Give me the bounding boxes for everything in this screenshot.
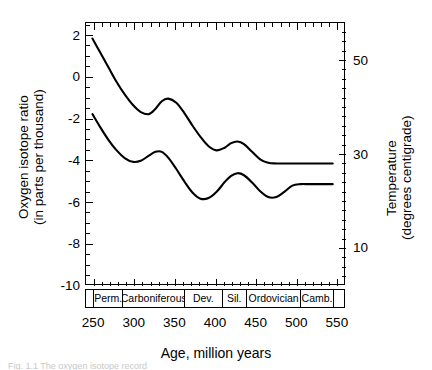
period-camb: Camb. — [301, 290, 334, 307]
period-blank — [86, 290, 94, 307]
period-ordovician: Ordovician — [247, 290, 301, 307]
y-axis-left-title-line1: Oxygen isotope ratio — [16, 44, 31, 270]
x-axis-tick-label: 250 — [82, 315, 105, 330]
y-axis-left-title-line2: (in parts per thousand) — [31, 44, 46, 270]
x-axis-tick-label: 550 — [326, 315, 349, 330]
period-label: Sil. — [227, 293, 242, 304]
y-axis-left-tick-label: 0 — [72, 69, 80, 84]
data-curves — [86, 23, 344, 284]
x-axis-tick-label: 300 — [122, 315, 145, 330]
y-axis-left-tick-label: 2 — [72, 27, 80, 42]
period-blank — [334, 290, 346, 307]
y-axis-left-tick-label: -6 — [68, 194, 80, 209]
y-axis-right-tick-label: 10 — [353, 240, 368, 255]
period-label: Camb. — [302, 293, 333, 304]
y-axis-left-tick-label: -8 — [68, 236, 80, 251]
period-label: Carboniferous — [123, 293, 185, 304]
x-axis-title: Age, million years — [0, 345, 432, 361]
period-label: Dev. — [193, 293, 214, 304]
y-axis-left-tick-label: -2 — [68, 111, 80, 126]
y-axis-right-title-line2: (degrees centigrade) — [399, 62, 414, 294]
period-perm: Perm. — [94, 290, 123, 307]
x-axis-tick-label: 500 — [285, 315, 308, 330]
y-axis-right-tick-label: 50 — [353, 52, 368, 67]
y-axis-left-tick-label: -4 — [68, 152, 80, 167]
curve-lower-envelope — [92, 114, 332, 199]
x-axis-tick-label: 400 — [204, 315, 227, 330]
curve-upper-envelope — [92, 39, 332, 164]
x-axis-tick-label: 450 — [244, 315, 267, 330]
period-label: Ordovician — [248, 293, 298, 304]
x-axis-tick-label: 350 — [163, 315, 186, 330]
geologic-period-bar: Perm.CarboniferousDev.Sil.OrdovicianCamb… — [85, 289, 345, 308]
period-carboniferous: Carboniferous — [123, 290, 185, 307]
y-axis-right-tick-label: 30 — [353, 146, 368, 161]
y-axis-right-title: Temperature (degrees centigrade) — [384, 62, 414, 294]
y-axis-left-tick-label: -10 — [60, 278, 80, 293]
period-dev: Dev. — [185, 290, 222, 307]
period-sil: Sil. — [223, 290, 247, 307]
y-axis-left-title: Oxygen isotope ratio (in parts per thous… — [16, 44, 46, 270]
plot-area — [85, 22, 345, 285]
figure-caption: Fig. 1.1 The oxygen isotope record — [8, 361, 428, 370]
figure-oxygen-isotope-chart: Oxygen isotope ratio (in parts per thous… — [0, 0, 432, 370]
period-label: Perm. — [94, 293, 122, 304]
y-axis-right-title-line1: Temperature — [384, 62, 399, 294]
